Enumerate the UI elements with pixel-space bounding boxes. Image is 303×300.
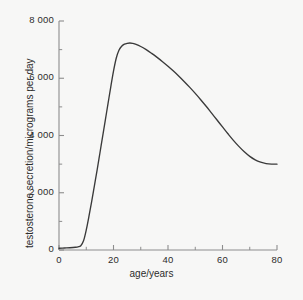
x-axis-major-ticks [59, 245, 277, 250]
x-tick-label: 80 [262, 254, 292, 265]
chart-figure: 02 0004 0006 0008 000020406080 age/years… [0, 0, 303, 300]
x-tick-label: 20 [99, 254, 129, 265]
axis-lines [59, 21, 277, 250]
x-axis-title: age/years [0, 268, 303, 279]
y-axis-title: testosterone secretion/micrograms per da… [24, 58, 35, 248]
y-axis-major-ticks [59, 21, 64, 250]
x-tick-label: 40 [153, 254, 183, 265]
y-tick-label: 0 [49, 243, 54, 254]
x-tick-label: 0 [44, 254, 74, 265]
data-series-line-testosterone [59, 43, 277, 248]
x-tick-label: 60 [208, 254, 238, 265]
y-tick-label: 8 000 [29, 14, 54, 25]
